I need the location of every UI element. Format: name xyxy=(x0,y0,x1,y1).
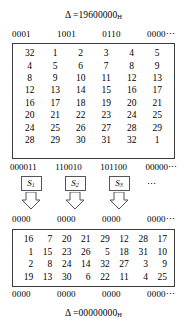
bit-group: 0000 xyxy=(12,213,31,226)
matrix-cell: 13 xyxy=(42,84,67,96)
matrix-cell: 23 xyxy=(93,109,118,121)
matrix-cell: 7 xyxy=(36,233,55,246)
delta-bottom-label: Δ =00000000H xyxy=(0,307,187,318)
bit-group: 0000 xyxy=(102,213,121,226)
bit-group: 101100 xyxy=(100,161,127,174)
delta-bottom-value: 00000000 xyxy=(79,308,118,318)
matrix-cell: 14 xyxy=(74,258,93,271)
matrix-cell: 8 xyxy=(119,60,144,72)
matrix-cell: 10 xyxy=(68,72,93,84)
matrix-cell: 11 xyxy=(93,72,118,84)
matrix-cell: 5 xyxy=(42,60,67,72)
sbox-1-subscript: 1 xyxy=(32,182,35,188)
matrix-cell: 22 xyxy=(94,271,113,284)
matrix-cell: 26 xyxy=(68,122,93,134)
matrix-cell: 3 xyxy=(132,258,151,271)
matrix-cell: 31 xyxy=(132,246,151,259)
table-row: 28 29 30 31 32 1 xyxy=(17,134,170,146)
matrix-cell: 1 xyxy=(17,246,36,259)
matrix-cell: 5 xyxy=(94,246,113,259)
sbox-3[interactable]: S3 xyxy=(109,176,130,191)
bit-group: 0000 xyxy=(12,288,31,301)
matrix-cell: 9 xyxy=(151,258,170,271)
matrix-cell: 19 xyxy=(93,97,118,109)
matrix-cell: 2 xyxy=(17,258,36,271)
table-row: 19 13 30 6 22 11 4 25 xyxy=(17,271,170,284)
delta-bottom-subscript: H xyxy=(117,311,122,318)
sbox-unit-3: S3 xyxy=(108,176,130,210)
bit-group: 0001 xyxy=(12,28,31,41)
matrix-cell: 15 xyxy=(36,246,55,259)
bit-group: 0000 xyxy=(57,288,76,301)
matrix-cell: 18 xyxy=(113,246,132,259)
bit-group: 0000 xyxy=(57,213,76,226)
table-row: 4 5 6 7 8 9 xyxy=(17,60,170,72)
sbox-2[interactable]: S2 xyxy=(65,176,86,191)
matrix-cell: 1 xyxy=(42,47,67,59)
matrix-bottom-table: 16 7 20 21 29 12 28 17 1 15 23 26 5 18 3… xyxy=(17,233,170,283)
matrix-cell: 27 xyxy=(93,122,118,134)
bit-group: 1001 xyxy=(57,28,76,41)
delta-top-value: 19600000 xyxy=(79,10,118,20)
bit-group: 0000 xyxy=(102,288,121,301)
matrix-cell: 11 xyxy=(113,271,132,284)
matrix-cell: 24 xyxy=(55,258,74,271)
table-row: 16 7 20 21 29 12 28 17 xyxy=(17,233,170,246)
matrix-cell: 21 xyxy=(144,97,170,109)
matrix-cell: 10 xyxy=(151,246,170,259)
bit-group: 110010 xyxy=(55,161,82,174)
sbox-1[interactable]: S1 xyxy=(21,176,42,191)
delta-top-label: Δ =19600000H xyxy=(0,9,187,23)
matrix-cell: 6 xyxy=(68,60,93,72)
matrix-cell: 16 xyxy=(119,84,144,96)
sbox-unit-2: S2 xyxy=(64,176,86,210)
matrix-cell: 13 xyxy=(144,72,170,84)
matrix-cell: 6 xyxy=(74,271,93,284)
down-arrow-icon xyxy=(109,192,129,210)
matrix-cell: 21 xyxy=(74,233,93,246)
matrix-cell: 29 xyxy=(94,233,113,246)
matrix-cell: 9 xyxy=(42,72,67,84)
matrix-cell: 22 xyxy=(68,109,93,121)
matrix-cell: 24 xyxy=(17,122,42,134)
table-row: 2 8 24 14 32 27 3 9 xyxy=(17,258,170,271)
down-arrow-icon xyxy=(21,192,41,210)
matrix-cell: 15 xyxy=(93,84,118,96)
matrix-cell: 8 xyxy=(17,72,42,84)
down-arrow-icon xyxy=(65,192,85,210)
matrix-cell: 8 xyxy=(36,258,55,271)
matrix-top: 32 1 2 3 4 5 4 5 6 7 8 9 8 9 10 11 12 xyxy=(12,43,175,159)
bit-group: 000011 xyxy=(10,161,37,174)
matrix-cell: 31 xyxy=(93,134,118,146)
matrix-cell: 19 xyxy=(17,271,36,284)
matrix-cell: 28 xyxy=(119,122,144,134)
matrix-cell: 20 xyxy=(17,109,42,121)
table-row: 16 17 18 19 20 21 xyxy=(17,97,170,109)
matrix-cell: 16 xyxy=(17,97,42,109)
matrix-cell: 4 xyxy=(132,271,151,284)
sbox-unit-1: S1 xyxy=(20,176,42,210)
matrix-cell: 1 xyxy=(144,134,170,146)
bit-row-top: 0001 1001 0110 0000⋯ xyxy=(12,28,175,41)
matrix-cell: 2 xyxy=(68,47,93,59)
matrix-cell: 7 xyxy=(93,60,118,72)
matrix-cell: 27 xyxy=(113,258,132,271)
sbox-3-subscript: 3 xyxy=(120,182,123,188)
matrix-cell: 28 xyxy=(132,233,151,246)
matrix-cell: 17 xyxy=(151,233,170,246)
matrix-cell: 32 xyxy=(119,134,144,146)
matrix-cell: 13 xyxy=(36,271,55,284)
delta-top-subscript: H xyxy=(117,13,122,20)
matrix-cell: 5 xyxy=(144,47,170,59)
matrix-cell: 32 xyxy=(94,258,113,271)
matrix-top-table: 32 1 2 3 4 5 4 5 6 7 8 9 8 9 10 11 12 xyxy=(17,47,170,146)
matrix-cell: 25 xyxy=(42,122,67,134)
matrix-cell: 23 xyxy=(55,246,74,259)
matrix-cell: 21 xyxy=(42,109,67,121)
matrix-cell: 18 xyxy=(68,97,93,109)
bit-row-bottom: 0000 0000 0000 0000⋯ xyxy=(12,288,175,301)
matrix-cell: 28 xyxy=(17,134,42,146)
bit-group: 00000⋯ xyxy=(145,161,177,174)
matrix-cell: 20 xyxy=(55,233,74,246)
matrix-cell: 4 xyxy=(119,47,144,59)
